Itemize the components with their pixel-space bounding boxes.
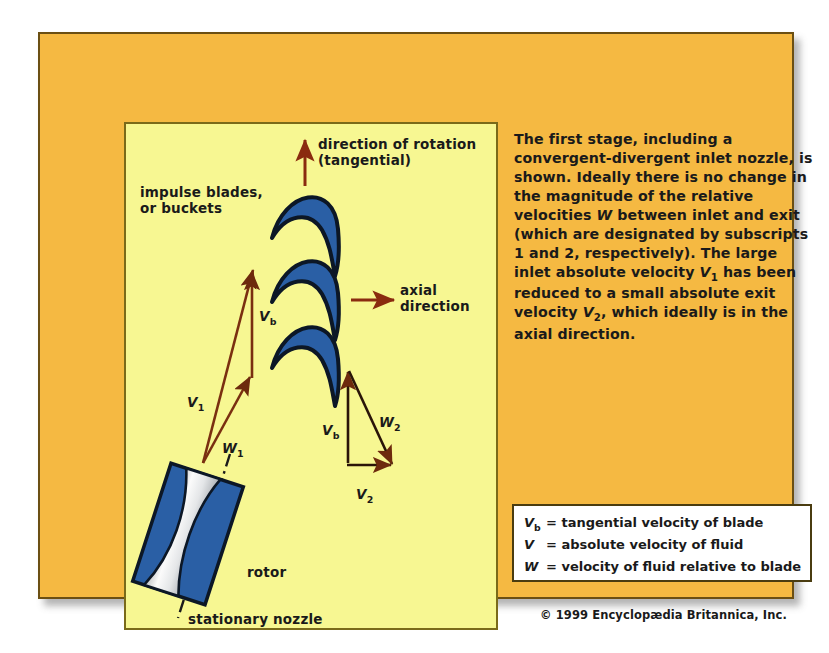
vector-subscript-v2: 2 bbox=[367, 494, 374, 505]
inline-symbol-v1: V bbox=[700, 264, 711, 280]
legend-definition: = absolute velocity of fluid bbox=[546, 537, 743, 552]
vector-label-vb-inlet: Vb bbox=[259, 292, 277, 328]
vector-symbol-w2: W bbox=[379, 414, 394, 430]
legend-row: Vb= tangential velocity of blade bbox=[524, 513, 800, 535]
stationary-nozzle bbox=[133, 454, 244, 618]
vector-subscript-w2: 2 bbox=[394, 422, 401, 433]
axial-direction-label: axial direction bbox=[400, 282, 470, 315]
vector-symbol-vb-exit: V bbox=[322, 422, 333, 438]
rotation-direction-label: direction of rotation (tangential) bbox=[318, 136, 476, 169]
copyright-credit: © 1999 Encyclopædia Britannica, Inc. bbox=[540, 608, 787, 622]
vector-subscript-v1: 1 bbox=[198, 402, 205, 413]
vector-label-w2: W2 bbox=[379, 398, 401, 434]
vector-symbol-v1: V bbox=[187, 394, 198, 410]
diagram-panel: direction of rotation (tangential) impul… bbox=[124, 122, 498, 630]
vector-subscript-vb-exit: b bbox=[333, 430, 340, 441]
figure-root: direction of rotation (tangential) impul… bbox=[0, 0, 829, 653]
legend-symbol-vb: Vb bbox=[524, 513, 546, 535]
legend-symbol-v: V bbox=[524, 535, 546, 557]
inline-symbol-v2: V bbox=[583, 304, 594, 320]
inline-symbol-w: W bbox=[597, 207, 613, 223]
legend-row: W= velocity of fluid relative to blade bbox=[524, 557, 800, 579]
vector-symbol-vb-inlet: V bbox=[259, 308, 270, 324]
vector-label-vb-exit: Vb bbox=[322, 406, 340, 442]
outer-orange-panel: direction of rotation (tangential) impul… bbox=[38, 32, 794, 599]
vector-symbol-v2: V bbox=[356, 486, 367, 502]
vector-subscript-w1: 1 bbox=[237, 448, 244, 459]
description-paragraph: The first stage, including a convergent-… bbox=[514, 130, 814, 344]
stationary-nozzle-label: stationary nozzle bbox=[188, 611, 323, 627]
vector-subscript-vb-inlet: b bbox=[270, 316, 277, 327]
rotor-label: rotor bbox=[247, 564, 286, 580]
vector-label-v1: V1 bbox=[187, 378, 204, 414]
legend-symbol-w: W bbox=[524, 557, 546, 579]
impulse-blade-3 bbox=[272, 327, 339, 406]
legend-box: Vb= tangential velocity of blade V= abso… bbox=[512, 504, 812, 582]
vector-symbol-w1: W bbox=[222, 440, 237, 456]
legend-definition: = tangential velocity of blade bbox=[546, 515, 763, 530]
impulse-blades-label: impulse blades, or buckets bbox=[140, 184, 263, 217]
legend-definition: = velocity of fluid relative to blade bbox=[546, 559, 801, 574]
legend-row: V= absolute velocity of fluid bbox=[524, 535, 800, 557]
vector-label-v2: V2 bbox=[356, 470, 373, 506]
vector-label-w1: W1 bbox=[222, 424, 244, 460]
